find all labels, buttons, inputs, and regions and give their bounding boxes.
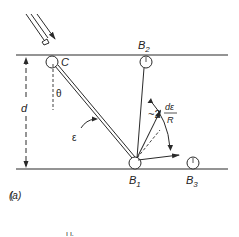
separation-label: d: [21, 102, 28, 114]
separation-arrowhead-bottom: [24, 161, 29, 168]
label-b2: B2: [138, 39, 150, 54]
double-ray-c-b1: [55, 65, 135, 158]
reflection-diagram: d C θ ε B1 B2 B3 ~2 dε R ( (a) ı ı.: [0, 0, 239, 237]
separation-arrowhead-top: [24, 57, 29, 64]
label-b3: B3: [186, 174, 198, 189]
bounce-circle-b1: [129, 157, 141, 169]
contact-circle-c: [46, 56, 58, 68]
panel-label-full: (a): [9, 190, 21, 201]
label-epsilon: ε: [72, 132, 77, 143]
label-theta: θ: [56, 88, 62, 99]
label-c: C: [61, 56, 69, 68]
ray-b1-b2: [137, 68, 144, 158]
label-angle-denominator: R: [167, 115, 174, 125]
label-b1: B1: [129, 174, 141, 189]
label-angle-numerator: dε: [165, 102, 175, 112]
incident-beam: [26, 14, 55, 45]
cut-off-fragment: ı ı.: [66, 230, 74, 237]
outgoing-ray: [138, 155, 179, 160]
label-angle-prefix: ~2: [148, 108, 161, 120]
